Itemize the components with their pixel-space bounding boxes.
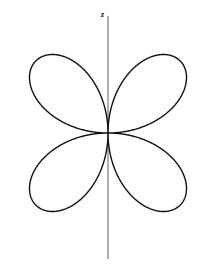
plot-canvas bbox=[0, 0, 216, 267]
z-axis-label: z bbox=[101, 11, 104, 19]
polar-pattern-figure: z bbox=[0, 0, 216, 267]
